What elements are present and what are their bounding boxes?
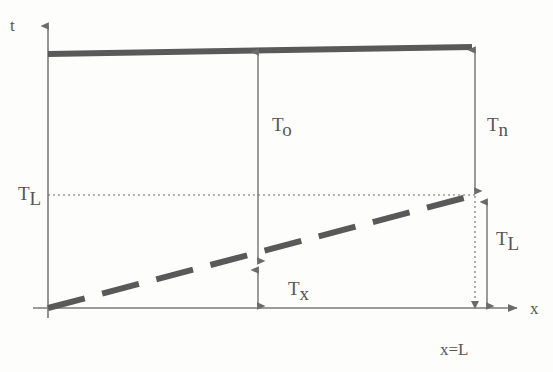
diagram-canvas: t x TL To Tx Tn TL x=L [0,0,553,372]
x-axis-label: x [530,299,539,318]
y-axis-label: t [10,16,15,35]
temperature-profile-diagram: t x TL To Tx Tn TL x=L [0,0,553,372]
x-equals-l-label: x=L [440,340,468,359]
